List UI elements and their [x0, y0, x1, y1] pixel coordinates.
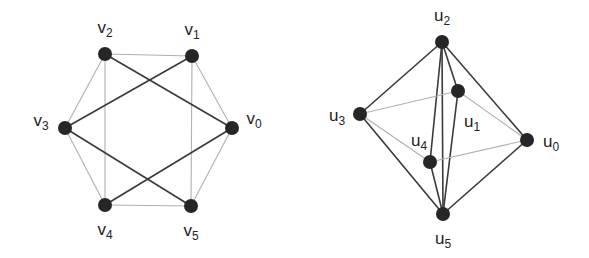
graph-node-v1[interactable] — [185, 49, 199, 63]
node-label-u0: u0 — [543, 133, 559, 152]
node-label-u5: u5 — [435, 230, 451, 249]
node-label-base: v — [97, 18, 106, 37]
node-label-u2: u2 — [434, 7, 450, 26]
graph-edge — [105, 54, 232, 128]
graph-edge — [65, 128, 191, 206]
graph-node-u0[interactable] — [520, 133, 534, 147]
node-label-u3: u3 — [329, 107, 345, 126]
graph-edge — [360, 42, 442, 114]
graph-node-v2[interactable] — [98, 47, 112, 61]
graph-node-u1[interactable] — [451, 84, 465, 98]
node-label-v0: v0 — [246, 110, 261, 129]
graph-edge — [430, 140, 527, 162]
graph-node-v5[interactable] — [184, 199, 198, 213]
node-label-base: v — [183, 221, 192, 240]
graph-figure: v0v1v2v3v4v5u0u1u2u3u4u5 — [0, 0, 589, 258]
graph-edge — [430, 42, 442, 162]
node-label-base: v — [246, 109, 255, 128]
graph-node-v3[interactable] — [58, 121, 72, 135]
graph-edge — [360, 91, 458, 114]
node-label-subscript: 0 — [552, 140, 559, 154]
node-label-subscript: 3 — [338, 114, 345, 128]
node-label-subscript: 2 — [106, 26, 113, 40]
node-label-v4: v4 — [97, 221, 112, 240]
node-label-u1: u1 — [464, 113, 480, 132]
graph-node-u4[interactable] — [423, 155, 437, 169]
graph-node-v4[interactable] — [98, 198, 112, 212]
graph-node-u5[interactable] — [436, 207, 450, 221]
node-label-v5: v5 — [183, 222, 198, 241]
graph-edge — [105, 128, 232, 205]
node-label-u4: u4 — [411, 132, 427, 151]
graph-edge — [442, 42, 458, 91]
node-label-subscript: 1 — [193, 28, 200, 42]
graph-edge — [443, 91, 458, 214]
node-label-v1: v1 — [184, 21, 199, 40]
graph-canvas — [0, 0, 589, 258]
graph-edge — [442, 42, 443, 214]
graph-edge — [191, 56, 192, 206]
edges-layer — [65, 42, 527, 214]
graph-edge — [105, 205, 191, 206]
node-label-v2: v2 — [97, 19, 112, 38]
nodes-layer — [58, 35, 534, 221]
node-label-subscript: 5 — [192, 229, 199, 243]
node-label-subscript: 1 — [473, 120, 480, 134]
node-label-subscript: 4 — [420, 139, 427, 153]
node-label-subscript: 2 — [443, 14, 450, 28]
node-label-subscript: 4 — [106, 228, 113, 242]
node-label-base: v — [97, 220, 106, 239]
node-label-subscript: 5 — [444, 237, 451, 251]
node-label-subscript: 3 — [42, 119, 49, 133]
graph-node-v0[interactable] — [225, 121, 239, 135]
graph-node-u2[interactable] — [435, 35, 449, 49]
graph-node-u3[interactable] — [353, 107, 367, 121]
graph-edge — [443, 140, 527, 214]
node-label-base: v — [184, 20, 193, 39]
node-label-v3: v3 — [33, 112, 48, 131]
node-label-base: v — [33, 111, 42, 130]
graph-edge — [105, 54, 192, 56]
node-label-subscript: 0 — [255, 117, 262, 131]
